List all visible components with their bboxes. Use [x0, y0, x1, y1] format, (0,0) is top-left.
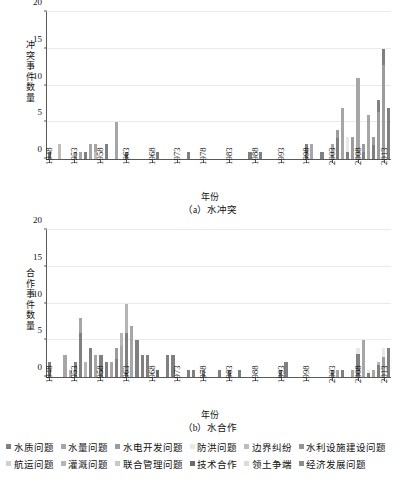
legend-swatch-icon	[115, 461, 120, 466]
legend-item[interactable]: 水量问题	[61, 440, 109, 454]
bar-stack[interactable]	[105, 144, 108, 159]
legend-swatch-icon	[61, 444, 66, 449]
chart-b-plot-area: 05101520	[46, 230, 391, 378]
legend-item[interactable]: 技术合作	[190, 457, 238, 471]
bar-stack[interactable]	[110, 362, 113, 377]
chart-b-caption: （b）水合作	[0, 420, 420, 434]
bar-segment	[130, 326, 133, 377]
legend-swatch-icon	[6, 444, 11, 449]
bar-segment	[166, 355, 169, 377]
bar-segment	[110, 362, 113, 377]
bar-stack[interactable]	[238, 370, 241, 377]
bar-segment	[105, 144, 108, 159]
legend-item[interactable]: 边界纠纷	[244, 440, 292, 454]
legend-label: 水利设施建设问题	[306, 440, 386, 454]
bar-segment	[346, 152, 349, 159]
y-tick-label: 5	[38, 107, 48, 117]
legend-label: 水量问题	[68, 440, 108, 454]
legend-item[interactable]: 联合管理问题	[115, 457, 183, 471]
y-tick-label: 20	[33, 0, 47, 7]
chart-a-plot-area: 05101520	[46, 12, 391, 160]
legend-item[interactable]: 经济发展问题	[299, 457, 367, 471]
bar-segment	[372, 370, 375, 377]
bar-stack[interactable]	[130, 326, 133, 377]
bar-stack[interactable]	[79, 152, 82, 159]
bar-segment	[367, 115, 370, 159]
bar-segment	[115, 122, 118, 159]
bar-stack[interactable]	[135, 340, 138, 377]
bar-stack[interactable]	[187, 370, 190, 377]
bar-stack[interactable]	[346, 137, 349, 159]
bar-segment	[135, 340, 138, 377]
legend-item[interactable]: 领土争端	[244, 457, 292, 471]
bar-stack[interactable]	[115, 348, 118, 377]
bar-segment	[377, 100, 380, 112]
legend-label: 航运问题	[14, 457, 54, 471]
bar-segment	[79, 318, 82, 333]
bar-segment	[320, 152, 323, 159]
bar-segment	[89, 144, 92, 159]
bar-stack[interactable]	[58, 144, 61, 159]
bar-stack[interactable]	[341, 370, 344, 377]
bar-stack[interactable]	[166, 355, 169, 377]
bar-segment	[79, 333, 82, 377]
bar-stack[interactable]	[367, 115, 370, 159]
chart-water-conflict: 冲突事件数量 05101520 194819531958196319681973…	[0, 4, 420, 209]
bar-stack[interactable]	[218, 370, 221, 377]
chart-b-y-axis-label: 合作事件数量	[22, 268, 38, 331]
bar-stack[interactable]	[89, 348, 92, 377]
bar-segment	[367, 373, 370, 377]
bar-stack[interactable]	[341, 108, 344, 159]
bar-stack[interactable]	[187, 152, 190, 159]
legend-label: 水电开发问题	[123, 440, 183, 454]
legend-swatch-icon	[190, 444, 195, 449]
y-tick-label: 15	[33, 252, 47, 262]
legend-item[interactable]: 水利设施建设问题	[299, 440, 387, 454]
bar-segment	[84, 152, 87, 159]
legend-label: 灌溉问题	[68, 457, 108, 471]
y-tick-label: 5	[38, 325, 48, 335]
bar-stack[interactable]	[115, 122, 118, 159]
bar-series	[47, 230, 391, 377]
bar-group[interactable]	[386, 230, 391, 377]
legend-item[interactable]: 水质问题	[6, 440, 54, 454]
bar-stack[interactable]	[367, 370, 370, 377]
bar-stack[interactable]	[372, 137, 375, 159]
bar-segment	[187, 152, 190, 159]
y-tick-label: 10	[33, 289, 47, 299]
bar-stack[interactable]	[372, 370, 375, 377]
bar-segment	[238, 370, 241, 377]
y-tick-label: 15	[33, 34, 47, 44]
bar-segment	[141, 355, 144, 377]
legend-item[interactable]: 防洪问题	[190, 440, 238, 454]
bar-stack[interactable]	[89, 144, 92, 159]
bar-stack[interactable]	[63, 355, 66, 377]
bar-stack[interactable]	[79, 318, 82, 377]
legend-swatch-icon	[61, 461, 66, 466]
bar-segment	[79, 152, 82, 159]
legend-item[interactable]: 水电开发问题	[115, 440, 183, 454]
legend-label: 联合管理问题	[123, 457, 183, 471]
bar-segment	[310, 144, 313, 159]
bar-stack[interactable]	[382, 49, 385, 159]
bar-segment	[84, 362, 87, 377]
legend-swatch-icon	[115, 444, 120, 449]
bar-stack[interactable]	[192, 370, 195, 377]
bar-group[interactable]	[386, 12, 391, 159]
legend-item[interactable]: 航运问题	[6, 457, 54, 471]
bar-segment	[372, 137, 375, 145]
bar-segment	[115, 348, 118, 360]
bar-stack[interactable]	[105, 362, 108, 377]
bar-stack[interactable]	[141, 355, 144, 377]
bar-stack[interactable]	[84, 362, 87, 377]
bar-segment	[63, 355, 66, 377]
bar-stack[interactable]	[84, 152, 87, 159]
bar-segment	[120, 333, 123, 346]
legend-label: 技术合作	[197, 457, 237, 471]
bar-segment	[382, 49, 385, 65]
bar-segment	[218, 370, 221, 377]
bar-segment	[125, 304, 128, 333]
bar-stack[interactable]	[310, 144, 313, 159]
bar-stack[interactable]	[320, 152, 323, 159]
legend-item[interactable]: 灌溉问题	[61, 457, 109, 471]
